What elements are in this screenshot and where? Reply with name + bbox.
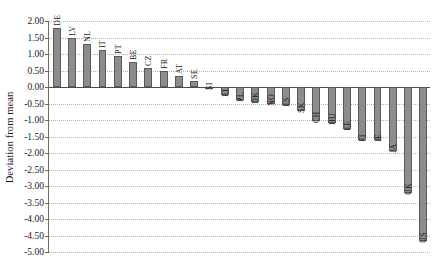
y-axis-tick-label: -0.50 — [24, 99, 44, 109]
bar-group: ES — [282, 21, 290, 252]
bar-group: SE — [190, 21, 198, 252]
bar-category-label: ES — [282, 97, 291, 107]
y-axis-tick-label: -5.00 — [24, 247, 44, 257]
bar-category-label: UK — [404, 183, 413, 195]
bar-category-label: IE — [374, 135, 383, 143]
bar-group: IT — [99, 21, 107, 252]
y-axis-tick-label: 1.50 — [27, 33, 44, 43]
bar-category-label: SK — [297, 102, 306, 113]
bar-group: DE — [53, 21, 61, 252]
bar — [68, 38, 76, 88]
bar — [190, 81, 198, 87]
bar-category-label: FR — [160, 59, 169, 69]
bar-category-label: IT — [98, 40, 107, 48]
y-axis-tick-label: 1.00 — [27, 49, 44, 59]
bar-category-label: DE — [53, 15, 62, 26]
plot-area: DELVNLITPTBECZFRATSESIELPLDKNOESSKCHHUEE… — [48, 21, 430, 252]
bar — [160, 71, 168, 87]
bar-group: CZ — [144, 21, 152, 252]
y-axis-tick-label: -3.50 — [24, 198, 44, 208]
bar-group: PT — [114, 21, 122, 252]
bar-group: NO — [267, 21, 275, 252]
bar-group: PL — [236, 21, 244, 252]
bar-category-label: SI — [205, 83, 214, 91]
bar-chart-figure: Deviation from mean 2.001.501.000.500.00… — [0, 0, 432, 275]
bar-group: FR — [160, 21, 168, 252]
bar-group: CH — [312, 21, 320, 252]
bar-category-label: EE — [343, 120, 352, 130]
bar — [374, 87, 382, 140]
bar-group: BE — [129, 21, 137, 252]
bar-category-label: EL — [221, 87, 230, 97]
bar — [404, 87, 412, 193]
bar — [53, 28, 61, 87]
bar — [83, 44, 91, 87]
bar-group: FI — [358, 21, 366, 252]
y-axis-tick-label: -4.50 — [24, 231, 44, 241]
bar-category-label: US — [419, 233, 428, 244]
y-axis-tick-label: -4.00 — [24, 214, 44, 224]
bar-group: SK — [297, 21, 305, 252]
bar-category-label: BE — [129, 49, 138, 60]
y-axis-tick-mark — [45, 252, 49, 253]
bar-category-label: CH — [312, 112, 321, 124]
bar-group: LV — [68, 21, 76, 252]
bar-category-label: PT — [114, 44, 123, 54]
bar — [389, 87, 397, 151]
bar — [144, 68, 152, 87]
bar-category-label: LV — [68, 25, 77, 35]
bar-group: JA — [389, 21, 397, 252]
bar-category-label: CZ — [144, 55, 153, 66]
y-axis-tick-label: 0.00 — [27, 82, 44, 92]
bar-group: EL — [221, 21, 229, 252]
bar-category-label: JA — [389, 144, 398, 153]
y-axis-tick-labels: 2.001.501.000.500.00-0.50-1.00-1.50-2.00… — [14, 0, 46, 275]
gridline — [49, 252, 430, 253]
bar-group: AT — [175, 21, 183, 252]
bar — [419, 87, 427, 241]
y-axis-tick-label: -1.00 — [24, 115, 44, 125]
bar-category-label: FI — [358, 134, 367, 142]
bar-category-label: PL — [236, 92, 245, 102]
bar — [358, 87, 366, 140]
bar-group: UK — [404, 21, 412, 252]
bar-group: NL — [83, 21, 91, 252]
bar-group: DK — [251, 21, 259, 252]
bar-category-label: HU — [328, 113, 337, 125]
y-axis-tick-label: 2.00 — [27, 16, 44, 26]
bar-category-label: AT — [175, 64, 184, 74]
bar — [129, 62, 137, 87]
bar-category-label: SE — [190, 69, 199, 79]
y-axis-tick-label: -2.00 — [24, 148, 44, 158]
y-axis-tick-label: -3.00 — [24, 181, 44, 191]
bar-series: DELVNLITPTBECZFRATSESIELPLDKNOESSKCHHUEE… — [49, 21, 430, 252]
bar-group: IE — [374, 21, 382, 252]
y-axis-tick-label: 0.50 — [27, 66, 44, 76]
bar-category-label: NL — [83, 31, 92, 42]
bar-group: HU — [328, 21, 336, 252]
bar — [114, 56, 122, 87]
bar — [175, 76, 183, 87]
bar-category-label: NO — [267, 94, 276, 106]
bar-group: EE — [343, 21, 351, 252]
bar-group: US — [419, 21, 427, 252]
bar-group: SI — [205, 21, 213, 252]
y-axis-tick-label: -2.50 — [24, 165, 44, 175]
bar-category-label: DK — [251, 92, 260, 104]
bar — [99, 50, 107, 87]
y-axis-tick-label: -1.50 — [24, 132, 44, 142]
